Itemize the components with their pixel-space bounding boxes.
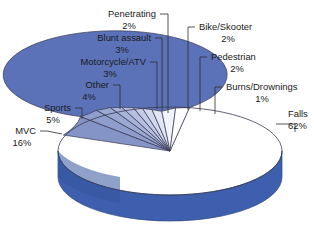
label-mvc-name: MVC [15,125,36,136]
pie-chart-figure: Penetrating 2% Blunt assault 3% Motorcyc… [0,0,314,236]
label-penetrating-pct: 2% [122,20,136,31]
label-blunt-assault-pct: 3% [115,44,129,55]
label-motorcycle-atv-name: Motorcycle/ATV [81,56,147,67]
label-penetrating-name: Penetrating [108,8,156,19]
label-other-pct: 4% [82,91,96,102]
label-sports-name: Sports [44,102,71,113]
label-mvc-pct: 16% [13,137,32,148]
leader-mvc [40,131,62,134]
label-falls-pct: 62% [288,120,307,131]
label-blunt-assault-name: Blunt assault [97,32,151,43]
label-other-name: Other [86,79,109,90]
pie-chart-svg: Penetrating 2% Blunt assault 3% Motorcyc… [0,0,314,236]
label-bike-skooter-name: Bike/Skooter [199,21,252,32]
label-pedestrian-pct: 2% [230,63,244,74]
label-falls-name: Falls [288,108,308,119]
pie-side-wall-shadow [58,151,120,203]
label-bike-skooter-pct: 2% [221,33,235,44]
label-burns-drownings-pct: 1% [255,93,269,104]
label-burns-drownings-name: Burns/Drownings [226,81,298,92]
label-pedestrian-name: Pedestrian [211,51,256,62]
label-sports-pct: 5% [46,114,60,125]
label-motorcycle-atv-pct: 3% [103,68,117,79]
